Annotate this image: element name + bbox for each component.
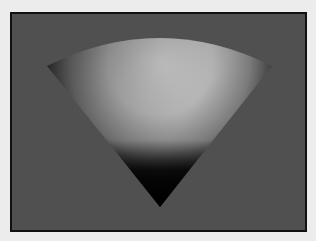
- cone-render: [0, 0, 316, 241]
- cone-shape: [47, 38, 272, 207]
